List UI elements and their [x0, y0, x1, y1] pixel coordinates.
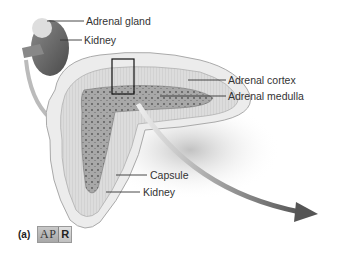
label-adrenal-cortex: Adrenal cortex	[228, 74, 296, 86]
label-capsule: Capsule	[150, 169, 189, 181]
apr-badge-ap: AP	[38, 227, 59, 242]
label-kidney-top: Kidney	[84, 34, 116, 46]
apr-badge-r: R	[59, 227, 71, 242]
label-kidney-bottom: Kidney	[143, 186, 175, 198]
apr-badge[interactable]: AP R	[37, 226, 72, 243]
label-adrenal-medulla: Adrenal medulla	[228, 90, 304, 102]
panel-label: (a)	[18, 229, 30, 240]
label-adrenal-gland: Adrenal gland	[86, 15, 151, 27]
